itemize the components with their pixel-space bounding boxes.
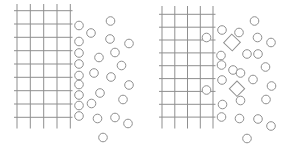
left-panel-texture-circle xyxy=(117,61,126,70)
right-panel-texture-circle xyxy=(235,28,244,37)
left-panel-texture-circle xyxy=(75,37,84,46)
right-panel-rotated-square xyxy=(229,81,244,96)
left-panel-texture-circle xyxy=(87,99,96,108)
left-panel-texture-circle xyxy=(119,95,128,104)
right-panel-texture-circle xyxy=(236,96,245,105)
left-panel-texture-circle xyxy=(75,60,84,69)
right-panel-texture-circle xyxy=(267,82,276,91)
left-panel-texture-circle xyxy=(95,53,104,62)
left-panel-texture-circle xyxy=(75,71,84,80)
right-panel-texture-circle xyxy=(253,33,262,42)
left-panel-texture-circle xyxy=(75,80,84,89)
right-panel-texture-circle xyxy=(218,100,227,109)
right-panel-texture-circle xyxy=(218,76,227,85)
right-panel-texture-circle xyxy=(217,51,226,60)
left-panel-texture-circle xyxy=(75,91,84,100)
left-panel-texture-circle xyxy=(106,35,115,44)
left-panel-texture-circle xyxy=(75,101,84,110)
right-panel-texture-circle xyxy=(243,50,252,59)
right-panel-texture-circle xyxy=(262,95,271,104)
right-panel-texture-circle xyxy=(254,50,263,59)
right-panel-texture-circle xyxy=(267,38,276,47)
right-panel-texture-circle xyxy=(249,75,258,84)
left-panel-texture-circle xyxy=(106,17,115,26)
left-panel-texture-circle xyxy=(75,112,84,121)
left-panel-texture-circle xyxy=(87,29,96,38)
left-panel-texture-circle xyxy=(124,119,133,128)
left-panel-texture-circle xyxy=(107,73,116,82)
right-panel-texture-circle xyxy=(235,114,244,123)
figure-canvas xyxy=(0,0,291,149)
left-panel-texture-circle xyxy=(75,21,84,30)
right-panel-texture-circle xyxy=(217,61,226,70)
right-panel-texture-circle xyxy=(254,115,263,124)
right-panel-texture-circle xyxy=(218,26,227,35)
right-panel-grid-embedded-circle xyxy=(202,86,211,95)
left-panel-texture-circle xyxy=(111,113,120,122)
right-panel-texture-circle xyxy=(217,113,226,122)
right-panel-texture-circle xyxy=(267,122,276,131)
texture-segregation-figure xyxy=(0,0,291,149)
left-panel-texture-circle xyxy=(75,49,84,58)
right-panel-texture-circle xyxy=(236,69,245,78)
right-panel-texture-circle xyxy=(250,17,259,26)
left-panel-texture-circle xyxy=(111,48,120,57)
left-panel-texture-circle xyxy=(125,81,134,90)
left-panel-texture-circle xyxy=(96,89,105,98)
left-panel-texture-circle xyxy=(99,133,108,142)
right-panel-grid-embedded-circle xyxy=(202,33,211,42)
right-panel-texture-circle xyxy=(261,63,270,72)
left-panel-texture-circle xyxy=(93,114,102,123)
left-panel-texture-circle xyxy=(125,39,134,48)
left-panel-texture-circle xyxy=(90,69,99,78)
right-panel-texture-circle xyxy=(243,134,252,143)
